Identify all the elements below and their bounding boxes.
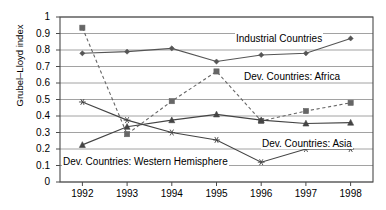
data-point-marker	[214, 59, 219, 64]
y-tick-label: 0.3	[24, 128, 50, 138]
x-tick-label: 1993	[105, 189, 149, 199]
series-label-asia: Dev. Countries: Asia	[261, 138, 353, 149]
series-label-africa: Dev. Countries: Africa	[243, 71, 341, 82]
data-point-marker	[303, 51, 308, 56]
data-point-marker	[348, 100, 353, 105]
data-point-marker	[348, 36, 353, 41]
y-tick-label: 0.6	[24, 78, 50, 88]
series-label-industrial: Industrial Countries	[235, 33, 323, 44]
data-point-marker	[79, 99, 86, 105]
x-tick-label: 1995	[195, 189, 239, 199]
chart-container: Grubel–Lloyd index 00.10.20.30.40.50.60.…	[0, 0, 386, 210]
y-axis-label: Grubel–Lloyd index	[14, 1, 25, 131]
y-tick-label: 0.9	[24, 29, 50, 39]
y-tick-label: 0.5	[24, 95, 50, 105]
x-tick-label: 1996	[239, 189, 283, 199]
data-point-marker	[259, 52, 264, 57]
x-tick-label: 1994	[150, 189, 194, 199]
y-tick-label: 0.4	[24, 111, 50, 121]
data-point-marker	[214, 69, 219, 74]
x-tick-label: 1997	[284, 189, 328, 199]
data-point-marker	[214, 111, 220, 117]
x-tick-label: 1998	[329, 189, 373, 199]
y-tick-label: 0.1	[24, 161, 50, 171]
x-tick-label: 1992	[60, 189, 104, 199]
data-point-marker	[168, 130, 175, 136]
y-tick-label: 0.2	[24, 144, 50, 154]
series-label-western-hemisphere: Dev. Countries: Western Hemisphere	[62, 156, 229, 167]
y-tick-label: 0.8	[24, 45, 50, 55]
y-tick-label: 1	[24, 12, 50, 22]
data-point-marker	[303, 108, 308, 113]
data-point-marker	[124, 132, 129, 137]
data-point-marker	[124, 117, 131, 123]
data-point-marker	[213, 137, 220, 143]
data-point-marker	[258, 159, 265, 165]
chart-plot-area	[0, 0, 386, 210]
y-tick-label: 0	[24, 177, 50, 187]
data-point-marker	[80, 25, 85, 30]
data-point-marker	[169, 99, 174, 104]
y-tick-label: 0.7	[24, 62, 50, 72]
data-point-marker	[80, 51, 85, 56]
